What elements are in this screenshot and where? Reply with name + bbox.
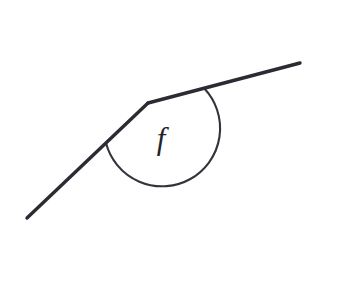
left-ray-line	[27, 103, 148, 218]
angle-diagram-figure: Angle f formed by two rays at a vertex f	[0, 0, 353, 297]
right-ray-line	[148, 63, 300, 103]
angle-diagram-canvas: Angle f formed by two rays at a vertex f	[0, 0, 353, 297]
angle-label-f: f	[157, 121, 170, 156]
